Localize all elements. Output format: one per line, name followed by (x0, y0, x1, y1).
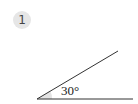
angle-diagram: 30° (0, 0, 138, 104)
angle-label: 30° (61, 83, 79, 98)
